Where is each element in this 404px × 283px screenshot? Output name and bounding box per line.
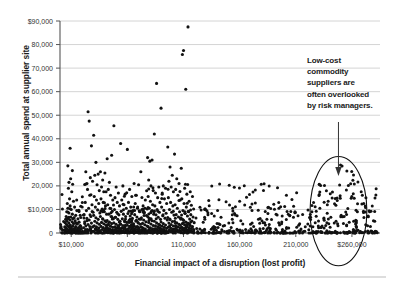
data-point — [167, 196, 170, 199]
data-point — [183, 202, 186, 205]
data-point — [297, 224, 300, 227]
data-point — [216, 222, 219, 225]
data-point — [134, 202, 137, 205]
data-point — [96, 183, 99, 186]
data-point — [269, 207, 272, 210]
data-point — [217, 226, 220, 229]
data-point — [186, 214, 189, 217]
data-point — [147, 178, 150, 181]
scatter-chart: 0$10,00020,00030,00040,00050,00060,00070… — [0, 0, 404, 283]
data-point — [251, 191, 254, 194]
data-point — [106, 228, 109, 231]
data-point — [192, 215, 195, 218]
data-point — [62, 220, 65, 223]
data-point — [149, 200, 152, 203]
y-tick-label: 50,000 — [32, 112, 54, 119]
data-point — [168, 218, 171, 221]
data-point — [71, 169, 74, 172]
data-point — [175, 213, 178, 216]
data-point — [184, 88, 187, 91]
data-point — [268, 184, 271, 187]
callout-annotation: Low-cost commodity suppliers are often o… — [307, 55, 403, 111]
data-point — [257, 231, 260, 234]
data-point — [122, 203, 125, 206]
data-point — [176, 207, 179, 210]
y-tick-label: 20,000 — [32, 182, 54, 189]
data-point — [248, 231, 251, 234]
data-point — [276, 231, 279, 234]
data-point — [356, 202, 359, 205]
data-point — [136, 225, 139, 228]
data-point — [190, 204, 193, 207]
data-point — [210, 212, 213, 215]
data-point — [275, 213, 278, 216]
data-point — [101, 178, 104, 181]
data-point — [103, 171, 106, 174]
data-point — [325, 189, 328, 192]
data-point — [93, 195, 96, 198]
data-point — [99, 215, 102, 218]
data-point — [277, 207, 280, 210]
data-point — [354, 222, 357, 225]
data-point — [283, 205, 286, 208]
data-point — [69, 204, 72, 207]
data-point — [290, 198, 293, 201]
data-point — [352, 192, 355, 195]
data-point — [96, 230, 99, 233]
data-point — [277, 201, 280, 204]
data-point — [226, 232, 229, 235]
data-point — [268, 223, 271, 226]
data-point — [186, 223, 189, 226]
data-point — [101, 218, 104, 221]
data-point — [325, 231, 328, 234]
data-point — [165, 212, 168, 215]
data-point — [218, 231, 221, 234]
data-point — [310, 204, 313, 207]
data-point — [95, 198, 98, 201]
data-point — [317, 194, 320, 197]
data-point — [112, 124, 115, 127]
data-point — [251, 231, 254, 234]
data-point — [153, 204, 156, 207]
data-point — [122, 213, 125, 216]
data-point — [118, 228, 121, 231]
data-point — [68, 197, 71, 200]
data-point — [147, 187, 150, 190]
callout-line-5: by risk managers. — [307, 100, 403, 111]
data-point — [220, 216, 223, 219]
data-point — [236, 214, 239, 217]
data-point — [119, 142, 122, 145]
data-point — [99, 197, 102, 200]
data-point — [171, 174, 174, 177]
data-point — [293, 210, 296, 213]
data-point — [86, 188, 89, 191]
data-point — [254, 189, 257, 192]
data-point — [263, 182, 266, 185]
data-point — [106, 157, 109, 160]
data-point — [267, 226, 270, 229]
data-point — [167, 180, 170, 183]
data-point — [357, 229, 360, 232]
x-tick-label: 210,000 — [283, 241, 308, 248]
data-point — [350, 170, 353, 173]
data-point — [127, 201, 130, 204]
data-point — [295, 191, 298, 194]
data-point — [345, 188, 348, 191]
data-point — [85, 231, 88, 234]
data-point — [286, 210, 289, 213]
data-point — [69, 177, 72, 180]
data-point — [270, 218, 273, 221]
data-point — [105, 220, 108, 223]
data-point — [198, 228, 201, 231]
data-point — [143, 214, 146, 217]
data-point — [292, 205, 295, 208]
data-point — [265, 229, 268, 232]
data-point — [179, 216, 182, 219]
data-point — [81, 201, 84, 204]
data-point — [352, 174, 355, 177]
data-point — [185, 193, 188, 196]
data-point — [162, 209, 165, 212]
data-point — [318, 207, 321, 210]
data-point — [120, 198, 123, 201]
data-point — [355, 226, 358, 229]
